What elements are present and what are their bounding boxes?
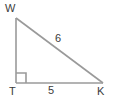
triangle-edge-wk (16, 18, 103, 83)
side-length-label-base: 5 (48, 85, 54, 96)
vertex-label-t: T (9, 86, 16, 97)
vertex-label-k: K (97, 86, 104, 97)
side-length-label-hypotenuse: 6 (55, 33, 61, 44)
right-triangle-figure: W T K 6 5 (0, 0, 116, 105)
vertex-label-w: W (5, 3, 15, 14)
right-angle-marker-icon (16, 73, 26, 83)
